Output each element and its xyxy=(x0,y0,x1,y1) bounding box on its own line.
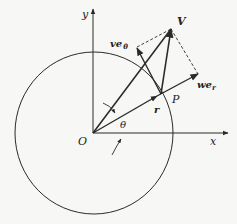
velocity-label: V xyxy=(177,15,187,28)
rotation-arrow-lower xyxy=(112,139,121,155)
x-axis-label: x xyxy=(210,135,217,148)
radial-component-label: wer xyxy=(197,79,217,92)
velocity-line-from-origin xyxy=(93,29,171,133)
theta-label: θ xyxy=(120,119,126,130)
point-label: P xyxy=(171,93,180,106)
radius-label: r xyxy=(154,104,160,115)
velocity-vector xyxy=(161,29,171,94)
transverse-component-vector xyxy=(137,48,161,94)
transverse-component-label: veθ xyxy=(110,38,128,51)
origin-label: O xyxy=(78,135,87,148)
dashed-edge-transverse xyxy=(137,29,171,47)
y-axis-label: y xyxy=(81,8,89,21)
dashed-edge-radial xyxy=(171,29,198,74)
velocity-diagram: y x O θ P r V wer veθ xyxy=(0,0,237,224)
